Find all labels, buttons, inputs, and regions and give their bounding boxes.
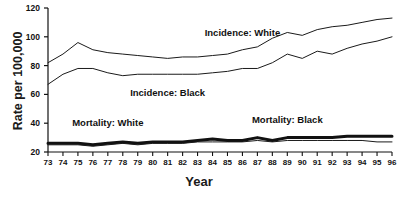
x-tick-label: 90 <box>294 158 310 167</box>
x-tick-label: 82 <box>175 158 191 167</box>
x-tick-label: 81 <box>160 158 176 167</box>
series-label-incidence-white: Incidence: White <box>205 27 280 38</box>
x-tick-label: 86 <box>234 158 250 167</box>
y-tick-label: 20 <box>18 147 40 157</box>
x-tick-label: 92 <box>324 158 340 167</box>
y-tick-label: 40 <box>18 118 40 128</box>
x-tick-label: 93 <box>339 158 355 167</box>
series-label-mortality-white: Mortality: White <box>72 116 143 127</box>
x-tick-label: 79 <box>130 158 146 167</box>
x-tick-label: 80 <box>145 158 161 167</box>
x-tick-label: 95 <box>369 158 385 167</box>
x-tick-label: 73 <box>40 158 56 167</box>
x-tick-label: 88 <box>264 158 280 167</box>
x-tick-marks <box>48 152 392 156</box>
plot-area <box>0 0 398 201</box>
x-tick-label: 91 <box>309 158 325 167</box>
x-tick-label: 76 <box>85 158 101 167</box>
x-tick-label: 94 <box>354 158 370 167</box>
x-tick-label: 85 <box>219 158 235 167</box>
x-tick-label: 74 <box>55 158 71 167</box>
chart-figure: Rate per 100,000 Year 20406080100120 737… <box>0 0 398 201</box>
x-tick-label: 77 <box>100 158 116 167</box>
series-label-mortality-black: Mortality: Black <box>252 113 323 124</box>
y-tick-label: 80 <box>18 61 40 71</box>
x-tick-label: 78 <box>115 158 131 167</box>
x-tick-label: 84 <box>205 158 221 167</box>
x-tick-label: 87 <box>249 158 265 167</box>
x-tick-label: 75 <box>70 158 86 167</box>
y-tick-label: 60 <box>18 89 40 99</box>
x-tick-label: 89 <box>279 158 295 167</box>
y-tick-label: 100 <box>18 32 40 42</box>
x-tick-label: 96 <box>384 158 398 167</box>
series-label-incidence-black: Incidence: Black <box>130 86 205 97</box>
x-tick-label: 83 <box>190 158 206 167</box>
y-tick-label: 120 <box>18 3 40 13</box>
